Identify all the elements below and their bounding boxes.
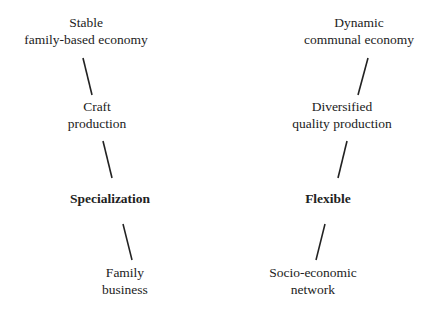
node-line: family-based economy (24, 32, 147, 49)
right-link-1 (358, 58, 368, 95)
node-stable-family-based-economy: Stable family-based economy (24, 15, 147, 48)
node-line: production (68, 116, 127, 133)
node-line: network (269, 282, 357, 299)
node-line: Craft (68, 99, 127, 116)
node-dynamic-communal-economy: Dynamic communal economy (304, 15, 414, 48)
node-line: Socio-economic (269, 265, 357, 282)
left-link-3 (123, 224, 132, 260)
left-link-2 (103, 141, 112, 178)
left-link-1 (83, 58, 92, 95)
node-line: business (102, 282, 148, 299)
node-line: communal economy (304, 32, 414, 49)
node-diversified-quality-production: Diversified quality production (292, 99, 391, 132)
node-line: Family (102, 265, 148, 282)
node-line: Flexible (305, 191, 351, 208)
node-line: Dynamic (304, 15, 414, 32)
node-socio-economic-network: Socio-economic network (269, 265, 357, 298)
node-line: Diversified (292, 99, 391, 116)
right-link-3 (316, 224, 325, 260)
node-specialization: Specialization (70, 191, 150, 208)
right-link-2 (338, 141, 347, 178)
node-flexible: Flexible (305, 191, 351, 208)
node-craft-production: Craft production (68, 99, 127, 132)
node-line: quality production (292, 116, 391, 133)
node-line: Stable (24, 15, 147, 32)
node-line: Specialization (70, 191, 150, 208)
node-family-business: Family business (102, 265, 148, 298)
